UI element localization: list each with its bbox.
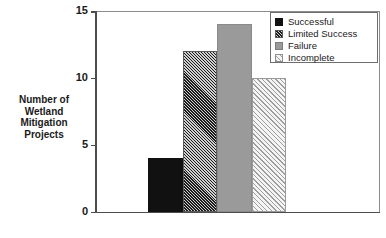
- legend-label-limited-success: Limited Success: [288, 28, 357, 39]
- plot-frame-right: [379, 11, 380, 213]
- y-tick-mark-5: [91, 145, 95, 147]
- legend-item-failure: Failure: [275, 40, 373, 52]
- y-tick-mark-15: [91, 11, 95, 13]
- bar-series: [148, 11, 286, 212]
- y-tick-mark-10: [91, 78, 95, 80]
- legend-label-successful: Successful: [288, 16, 334, 27]
- legend: Successful Limited Success Failure Incom…: [270, 12, 378, 63]
- y-tick-mark-0: [91, 212, 95, 214]
- bar-failure: [217, 24, 252, 211]
- legend-swatch-limited-success-icon: [275, 30, 283, 38]
- bar-limited-success: [183, 51, 218, 211]
- legend-item-limited-success: Limited Success: [275, 28, 373, 40]
- legend-swatch-failure-icon: [275, 42, 283, 50]
- legend-label-incomplete: Incomplete: [288, 52, 334, 63]
- y-axis-label-line-3: Mitigation: [2, 117, 86, 129]
- y-tick-label-5: 5: [58, 138, 88, 150]
- y-axis-label-line-2: Wetland: [2, 106, 86, 118]
- bar-incomplete: [252, 78, 287, 212]
- bar-chart: Number of Wetland Mitigation Projects 15…: [0, 0, 386, 238]
- legend-label-failure: Failure: [288, 40, 317, 51]
- y-tick-label-15: 15: [58, 4, 88, 16]
- y-axis-line: [95, 11, 97, 213]
- x-axis-line: [95, 212, 380, 214]
- y-tick-label-0: 0: [58, 205, 88, 217]
- legend-item-incomplete: Incomplete: [275, 52, 373, 64]
- legend-swatch-successful-icon: [275, 18, 283, 26]
- y-tick-label-10: 10: [58, 71, 88, 83]
- y-axis-label: Number of Wetland Mitigation Projects: [2, 94, 86, 140]
- bar-successful: [148, 158, 183, 211]
- y-axis-label-line-1: Number of: [2, 94, 86, 106]
- legend-swatch-incomplete-icon: [275, 54, 283, 62]
- legend-item-successful: Successful: [275, 16, 373, 28]
